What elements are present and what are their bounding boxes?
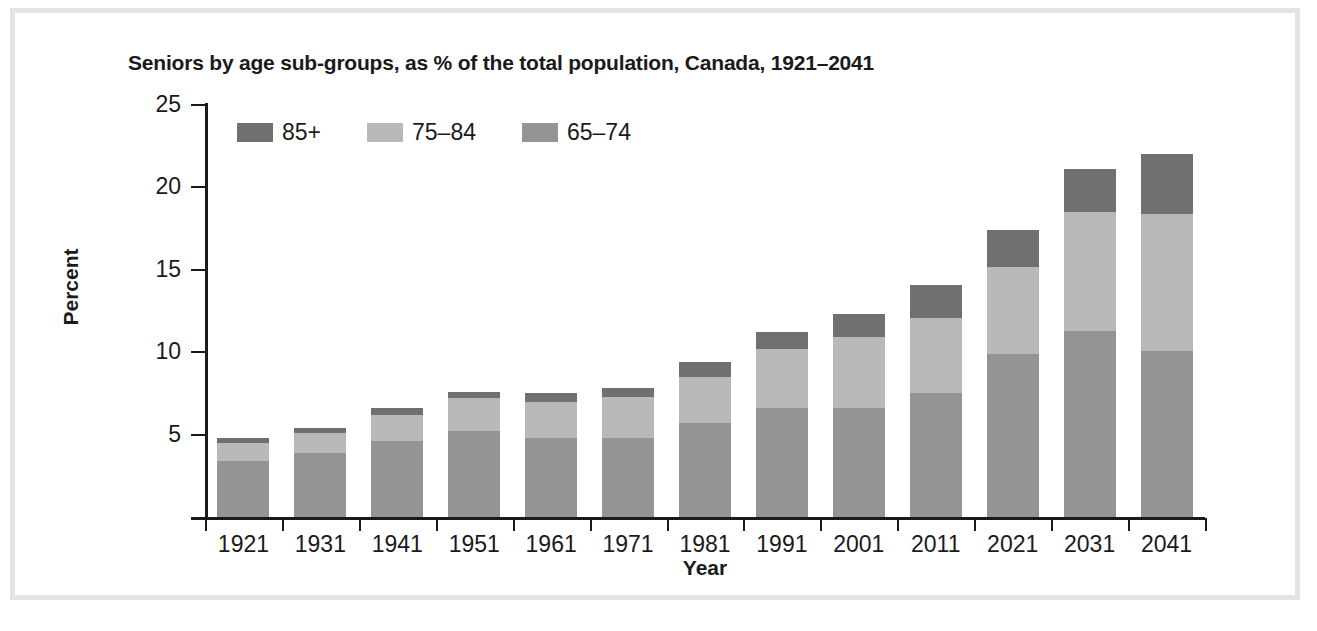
bar-segment[interactable] xyxy=(1064,169,1116,212)
x-axis-tick xyxy=(820,518,822,531)
bar-segment[interactable] xyxy=(448,392,500,399)
legend-item[interactable]: 65–74 xyxy=(522,121,631,144)
bar-segment[interactable] xyxy=(1141,154,1193,213)
bar-segment[interactable] xyxy=(987,267,1039,354)
bar-stack[interactable] xyxy=(1064,169,1116,517)
x-axis-tick xyxy=(974,518,976,531)
bar-segment[interactable] xyxy=(756,408,808,517)
y-axis-tick xyxy=(191,434,205,436)
legend-swatch-icon xyxy=(237,123,273,142)
bar-segment[interactable] xyxy=(294,433,346,453)
bar-stack[interactable] xyxy=(833,314,885,517)
bar-segment[interactable] xyxy=(371,415,423,441)
bar-stack[interactable] xyxy=(525,393,577,517)
legend-label: 75–84 xyxy=(412,121,476,144)
bar-segment[interactable] xyxy=(448,398,500,431)
bar-segment[interactable] xyxy=(833,408,885,517)
x-axis-tick xyxy=(1205,518,1207,531)
bar-segment[interactable] xyxy=(756,349,808,408)
bar-segment[interactable] xyxy=(987,230,1039,266)
chart-legend: 85+75–8465–74 xyxy=(237,121,631,144)
bar-segment[interactable] xyxy=(910,318,962,394)
x-axis-tick xyxy=(282,518,284,531)
y-axis-tick xyxy=(191,104,205,106)
legend-label: 65–74 xyxy=(567,121,631,144)
bar-segment[interactable] xyxy=(602,388,654,396)
x-axis-tick xyxy=(205,518,207,531)
y-axis-tick-label: 5 xyxy=(129,423,181,446)
bar-stack[interactable] xyxy=(910,285,962,517)
bar-segment[interactable] xyxy=(525,438,577,517)
figure-frame: Seniors by age sub-groups, as % of the t… xyxy=(10,8,1300,600)
bar-segment[interactable] xyxy=(679,377,731,423)
bar-segment[interactable] xyxy=(525,402,577,438)
x-axis-tick-label: 2041 xyxy=(1122,533,1212,556)
x-axis-tick xyxy=(1128,518,1130,531)
bar-segment[interactable] xyxy=(1141,351,1193,517)
y-axis-tick xyxy=(191,351,205,353)
bar-segment[interactable] xyxy=(525,393,577,401)
bar-segment[interactable] xyxy=(987,354,1039,517)
y-axis-tick-label: 15 xyxy=(129,258,181,281)
bar-segment[interactable] xyxy=(602,438,654,517)
bar-segment[interactable] xyxy=(371,408,423,415)
bar-segment[interactable] xyxy=(1064,331,1116,517)
legend-swatch-icon xyxy=(522,123,558,142)
bar-stack[interactable] xyxy=(679,362,731,517)
bar-stack[interactable] xyxy=(294,428,346,517)
y-axis-tick-label: 25 xyxy=(129,93,181,116)
bar-segment[interactable] xyxy=(833,314,885,337)
y-axis-tick-label: 10 xyxy=(129,340,181,363)
x-axis-tick xyxy=(897,518,899,531)
bar-stack[interactable] xyxy=(371,408,423,517)
bar-segment[interactable] xyxy=(1141,214,1193,351)
bar-segment[interactable] xyxy=(1064,212,1116,331)
bar-segment[interactable] xyxy=(910,285,962,318)
x-axis-tick xyxy=(667,518,669,531)
y-axis-title: Percent xyxy=(59,207,83,367)
legend-label: 85+ xyxy=(282,121,321,144)
legend-item[interactable]: 75–84 xyxy=(367,121,476,144)
bar-segment[interactable] xyxy=(833,337,885,408)
x-axis-tick xyxy=(1051,518,1053,531)
y-axis-tick xyxy=(191,269,205,271)
bar-segment[interactable] xyxy=(448,431,500,517)
x-axis-tick xyxy=(590,518,592,531)
legend-item[interactable]: 85+ xyxy=(237,121,321,144)
bar-segment[interactable] xyxy=(602,397,654,438)
bar-segment[interactable] xyxy=(371,441,423,517)
bar-stack[interactable] xyxy=(987,230,1039,517)
bar-segment[interactable] xyxy=(910,393,962,517)
legend-swatch-icon xyxy=(367,123,403,142)
x-axis-title: Year xyxy=(205,556,1205,580)
bar-stack[interactable] xyxy=(1141,154,1193,517)
bar-segment[interactable] xyxy=(217,461,269,517)
y-axis-tick xyxy=(191,186,205,188)
bar-stack[interactable] xyxy=(756,332,808,517)
bar-segment[interactable] xyxy=(294,453,346,517)
x-axis-tick xyxy=(359,518,361,531)
x-axis-tick xyxy=(513,518,515,531)
x-axis-tick xyxy=(743,518,745,531)
y-axis-tick-label: 20 xyxy=(129,175,181,198)
chart-title: Seniors by age sub-groups, as % of the t… xyxy=(128,51,874,75)
bar-segment[interactable] xyxy=(217,443,269,461)
plot-area xyxy=(205,105,1205,517)
bar-segment[interactable] xyxy=(679,362,731,377)
x-axis-tick xyxy=(436,518,438,531)
bar-stack[interactable] xyxy=(448,392,500,517)
bar-stack[interactable] xyxy=(602,388,654,517)
bar-segment[interactable] xyxy=(679,423,731,517)
bar-segment[interactable] xyxy=(756,332,808,348)
bar-stack[interactable] xyxy=(217,438,269,517)
